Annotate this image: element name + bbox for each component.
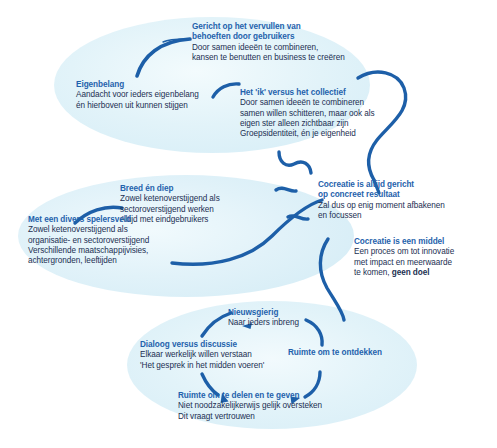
node-line: eigen ster alleen zichtbaar zijn	[240, 119, 375, 129]
node-line: Zowel ketenoverstijgend als	[28, 225, 149, 235]
node-line: Dit vraagt vertrouwen	[178, 412, 322, 422]
node-line-last-bold: geen doel	[392, 268, 430, 277]
node-eigenbelang: Eigenbelang Aandacht voor ieders eigenbe…	[76, 80, 199, 111]
node-heading: Met een divers spelersveld	[28, 215, 149, 225]
node-line: samen willen schitteren, maar ook als	[240, 109, 375, 119]
node-line-last: te komen, geen doel	[354, 268, 454, 278]
node-line: met impact en meerwaarde	[354, 258, 454, 268]
node-line: achtergronden, leeftijden	[28, 256, 149, 266]
node-heading: Het 'ik' versus het collectief	[240, 88, 375, 98]
node-line: Verschillende maatschappijvisies,	[28, 246, 149, 256]
node-dialoog-versus-discussie: Dialoog versus discussie Elkaar werkelij…	[140, 340, 264, 371]
node-het-ik-versus-het-collectief: Het 'ik' versus het collectief Door same…	[240, 88, 375, 139]
node-ruimte-om-te-delen-en-te-geven: Ruimte om te delen en te geven Niet nood…	[178, 391, 322, 422]
node-heading-line2: op concreet resultaat	[318, 190, 445, 200]
node-line: Elkaar werkelijk willen verstaan	[140, 350, 264, 360]
node-nieuwsgierig: Nieuwsgierig Naar ieders inbreng	[228, 308, 299, 329]
node-line: organisatie- en sectoroverstijgend	[28, 236, 149, 246]
node-line-last-prefix: te komen,	[354, 268, 392, 277]
node-line: Zal dus op enig moment afbakenen	[318, 201, 445, 211]
node-line: én hierboven uit kunnen stijgen	[76, 101, 199, 111]
node-line: Groepsidentiteit, én je eigenheid	[240, 129, 375, 139]
node-line: Door samen ideeën te combineren	[240, 98, 375, 108]
cocreatie-diagram: Gericht op het vervullen van behoeften d…	[0, 0, 497, 448]
node-heading: Eigenbelang	[76, 80, 199, 90]
node-heading: Dialoog versus discussie	[140, 340, 264, 350]
node-line: Naar ieders inbreng	[228, 318, 299, 328]
node-line: Door samen ideeën te combineren,	[192, 43, 345, 53]
node-line: Niet noodzakelijkerwijs gelijk oversteke…	[178, 401, 322, 411]
node-cocreatie-is-een-middel: Cocreatie is een middel Een proces om to…	[354, 237, 454, 278]
node-cocreatie-is-altijd-gericht: Cocreatie is altijd gericht op concreet …	[318, 180, 445, 221]
node-line: Zowel ketenoverstijgend als	[120, 194, 220, 204]
node-heading: Ruimte om te delen en te geven	[178, 391, 322, 401]
node-ruimte-om-te-ontdekken: Ruimte om te ontdekken	[288, 348, 382, 358]
node-met-een-divers-spelersveld: Met een divers spelersveld Zowel ketenov…	[28, 215, 149, 266]
node-heading: Ruimte om te ontdekken	[288, 348, 382, 358]
arrow-collectief-down-squiggle	[279, 152, 311, 173]
node-line: 'Het gesprek in het midden voeren'	[140, 361, 264, 371]
node-heading: Cocreatie is een middel	[354, 237, 454, 247]
node-line: en focussen	[318, 211, 445, 221]
node-gericht-op-het-vervullen: Gericht op het vervullen van behoeften d…	[192, 22, 345, 63]
node-line: Aandacht voor ieders eigenbelang	[76, 90, 199, 100]
node-heading: Nieuwsgierig	[228, 308, 299, 318]
node-heading-line2: behoeften door gebruikers	[192, 32, 345, 42]
node-heading: Breed én diep	[120, 184, 220, 194]
node-line: sectoroverstijgend werken	[120, 205, 220, 215]
node-line: Een proces om tot innovatie	[354, 247, 454, 257]
node-heading: Gericht op het vervullen van	[192, 22, 345, 32]
node-heading: Cocreatie is altijd gericht	[318, 180, 445, 190]
node-line: kansen te benutten en business te creëre…	[192, 53, 345, 63]
